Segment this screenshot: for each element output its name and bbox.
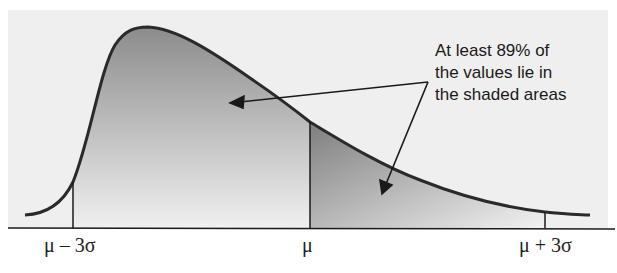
annotation-line: the values lie in xyxy=(435,62,566,84)
x-axis xyxy=(8,228,615,229)
annotation-line: the shaded areas xyxy=(435,84,566,106)
annotation-line: At least 89% of xyxy=(435,40,566,62)
annotation-text: At least 89% of the values lie in the sh… xyxy=(435,40,566,106)
axis-label-minus-3sigma: μ – 3σ xyxy=(44,234,96,257)
axis-label-plus-3sigma: μ + 3σ xyxy=(519,234,572,257)
axis-label-mean: μ xyxy=(302,234,313,257)
